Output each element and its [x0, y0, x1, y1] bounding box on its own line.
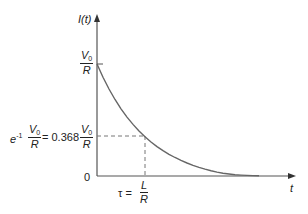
y-axis-arrow-icon — [94, 14, 100, 22]
v0-subscript: 0 — [88, 55, 92, 62]
x-axis-label: t — [290, 183, 293, 194]
r-text: R — [83, 64, 91, 76]
v0-subscript: 0 — [88, 129, 92, 136]
v0-subscript: 0 — [36, 129, 40, 136]
e-label: e-1 — [10, 132, 22, 145]
decay-curve — [97, 64, 259, 176]
v0-over-r-label: V0 R — [80, 50, 93, 76]
origin-label: 0 — [84, 172, 90, 183]
decay-plot — [0, 0, 308, 214]
e-superscript: -1 — [16, 132, 22, 139]
equals-value-label: = 0.368 — [42, 132, 79, 143]
l-text: L — [140, 180, 148, 193]
r-text: R — [31, 138, 39, 150]
r-text: R — [140, 193, 148, 205]
tau-label: τ = — [118, 188, 132, 199]
x-axis-arrow-icon — [288, 173, 296, 179]
y-axis-label: I(t) — [78, 14, 91, 25]
e-fraction-label: V0 R — [28, 124, 41, 150]
l-over-r-label: L R — [140, 180, 148, 205]
value-fraction-label: V0 R — [80, 124, 93, 150]
r-text: R — [83, 138, 91, 150]
